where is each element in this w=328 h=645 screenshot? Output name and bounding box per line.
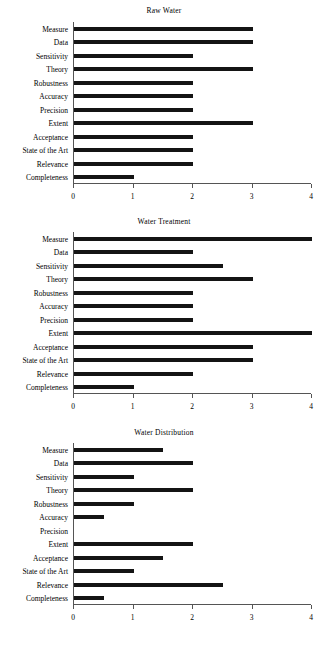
category-label: Data — [54, 459, 68, 468]
bar — [74, 488, 193, 492]
bar-chart-figure: Raw Water MeasureDataSensitivityTheoryRo… — [0, 0, 328, 645]
bar-row: Acceptance — [73, 340, 311, 354]
chart-panel-water-distribution: Water Distribution MeasureDataSensitivit… — [0, 424, 328, 645]
bar-row: Data — [73, 457, 311, 471]
bar — [74, 148, 193, 152]
x-axis-tick — [192, 605, 193, 609]
bar-row: Robustness — [73, 76, 311, 90]
plot-area-water-treatment: MeasureDataSensitivityTheoryRobustnessAc… — [73, 232, 311, 394]
x-axis-tick — [311, 605, 312, 609]
bar — [74, 27, 253, 31]
bar-row: Sensitivity — [73, 470, 311, 484]
x-axis-tick-label: 0 — [71, 613, 75, 622]
x-axis-tick-label: 4 — [309, 192, 313, 201]
bar — [74, 475, 134, 479]
bar-row: Theory — [73, 63, 311, 77]
bar — [74, 515, 104, 519]
bar-row: Completeness — [73, 592, 311, 606]
bar — [74, 54, 193, 58]
category-label: Robustness — [34, 499, 68, 508]
bar-row: Measure — [73, 443, 311, 457]
x-axis-tick-label: 1 — [131, 192, 135, 201]
x-axis-tick — [311, 394, 312, 398]
x-axis-tick-label: 3 — [250, 402, 254, 411]
plot-area-water-distribution: MeasureDataSensitivityTheoryRobustnessAc… — [73, 443, 311, 605]
category-label: Precision — [40, 526, 68, 535]
bar-row: Robustness — [73, 286, 311, 300]
bar-row: Completeness — [73, 171, 311, 185]
category-label: State of the Art — [22, 567, 68, 576]
category-label: Relevance — [37, 580, 68, 589]
bar — [74, 237, 312, 241]
bar-row: Acceptance — [73, 551, 311, 565]
bar — [74, 291, 193, 295]
bar — [74, 304, 193, 308]
category-label: Precision — [40, 315, 68, 324]
category-label: Completeness — [26, 173, 68, 182]
category-label: Sensitivity — [36, 51, 68, 60]
bar-row: Data — [73, 246, 311, 260]
x-axis-tick — [73, 184, 74, 188]
category-label: Completeness — [26, 383, 68, 392]
category-label: Sensitivity — [36, 472, 68, 481]
bar — [74, 448, 163, 452]
category-label: Relevance — [37, 159, 68, 168]
category-label: Sensitivity — [36, 261, 68, 270]
category-label: Theory — [46, 65, 68, 74]
chart-title-water-treatment: Water Treatment — [0, 217, 328, 227]
category-label: Robustness — [34, 288, 68, 297]
bar — [74, 175, 134, 179]
bar — [74, 502, 134, 506]
chart-title-raw-water: Raw Water — [0, 6, 328, 16]
x-axis-tick — [252, 184, 253, 188]
bar — [74, 67, 253, 71]
bar-row: State of the Art — [73, 354, 311, 368]
category-label: Measure — [42, 24, 68, 33]
bar — [74, 250, 193, 254]
bar-row: Sensitivity — [73, 259, 311, 273]
x-axis-tick — [252, 605, 253, 609]
bar — [74, 596, 104, 600]
plot-area-raw-water: MeasureDataSensitivityTheoryRobustnessAc… — [73, 22, 311, 184]
bar-row: Measure — [73, 232, 311, 246]
bar-rows-raw-water: MeasureDataSensitivityTheoryRobustnessAc… — [73, 22, 311, 184]
bar — [74, 358, 253, 362]
category-label: Theory — [46, 486, 68, 495]
category-label: Accuracy — [39, 513, 68, 522]
x-axis-tick-label: 2 — [190, 192, 194, 201]
x-axis-tick — [73, 394, 74, 398]
category-label: Extent — [48, 119, 68, 128]
category-label: State of the Art — [22, 356, 68, 365]
bar-row: Precision — [73, 524, 311, 538]
chart-panel-water-treatment: Water Treatment MeasureDataSensitivityTh… — [0, 212, 328, 424]
bar-rows-water-treatment: MeasureDataSensitivityTheoryRobustnessAc… — [73, 232, 311, 394]
chart-title-water-distribution: Water Distribution — [0, 428, 328, 438]
bar-row: Theory — [73, 484, 311, 498]
category-label: Accuracy — [39, 302, 68, 311]
bar-row: State of the Art — [73, 565, 311, 579]
bar — [74, 385, 134, 389]
bar — [74, 40, 253, 44]
x-axis-tick-label: 2 — [190, 613, 194, 622]
category-label: Theory — [46, 275, 68, 284]
x-axis-tick — [192, 184, 193, 188]
x-axis-tick-label: 1 — [131, 402, 135, 411]
x-axis-tick — [252, 394, 253, 398]
bar-row: Sensitivity — [73, 49, 311, 63]
bar — [74, 318, 193, 322]
bar — [74, 556, 163, 560]
x-axis-tick-label: 1 — [131, 613, 135, 622]
category-label: Extent — [48, 329, 68, 338]
bar — [74, 94, 193, 98]
x-axis-tick — [192, 394, 193, 398]
bar-row: Accuracy — [73, 90, 311, 104]
category-label: Precision — [40, 105, 68, 114]
category-label: Measure — [42, 445, 68, 454]
x-axis-tick-label: 3 — [250, 613, 254, 622]
bar-row: Extent — [73, 327, 311, 341]
category-label: Accuracy — [39, 92, 68, 101]
bar-row: Precision — [73, 313, 311, 327]
x-axis-tick — [73, 605, 74, 609]
bar — [74, 461, 193, 465]
bar-row: Extent — [73, 117, 311, 131]
